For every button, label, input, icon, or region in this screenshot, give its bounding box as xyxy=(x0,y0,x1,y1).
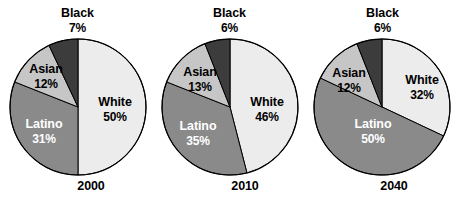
asian-label-2000: Asian 12% xyxy=(10,62,82,92)
pie-panel-2010: Black 6% Asian 13% Latino 35% White 46% … xyxy=(152,0,307,209)
white-label-pct: 32% xyxy=(391,88,453,103)
latino-label-text: Latino xyxy=(26,117,63,131)
black-label-text: Black xyxy=(61,6,94,20)
white-label-text: White xyxy=(98,95,132,109)
pie-chart-figure: Black 7% Asian 12% Latino 31% White 50% … xyxy=(0,0,465,209)
year-label-2000: 2000 xyxy=(60,179,122,193)
white-label-text: White xyxy=(250,95,284,109)
black-label-2000: Black 7% xyxy=(0,6,155,36)
white-label-text: White xyxy=(405,73,439,87)
pie-panel-2040: Black 6% Asian 12% Latino 50% White 32% … xyxy=(305,0,460,209)
asian-label-2040: Asian 12% xyxy=(313,66,385,96)
white-label-2040: White 32% xyxy=(391,73,453,103)
year-label-2010: 2010 xyxy=(214,179,276,193)
asian-label-2010: Asian 13% xyxy=(164,65,236,95)
year-label-2040: 2040 xyxy=(363,179,425,193)
black-label-2040: Black 6% xyxy=(305,6,460,36)
asian-label-pct: 12% xyxy=(10,77,82,92)
asian-label-text: Asian xyxy=(29,62,63,76)
latino-label-pct: 50% xyxy=(335,132,411,147)
black-label-pct: 6% xyxy=(305,21,460,36)
black-label-2010: Black 6% xyxy=(152,6,307,36)
asian-label-pct: 12% xyxy=(313,81,385,96)
asian-label-pct: 13% xyxy=(164,80,236,95)
latino-label-pct: 31% xyxy=(6,132,82,147)
white-label-pct: 50% xyxy=(84,110,146,125)
latino-label-text: Latino xyxy=(355,117,392,131)
latino-label-2000: Latino 31% xyxy=(6,117,82,147)
latino-label-pct: 35% xyxy=(160,134,236,149)
black-label-text: Black xyxy=(213,6,246,20)
white-label-2000: White 50% xyxy=(84,95,146,125)
latino-label-text: Latino xyxy=(180,119,217,133)
black-label-pct: 6% xyxy=(152,21,307,36)
pie-panel-2000: Black 7% Asian 12% Latino 31% White 50% … xyxy=(0,0,155,209)
white-label-pct: 46% xyxy=(236,110,298,125)
black-label-text: Black xyxy=(366,6,399,20)
white-label-2010: White 46% xyxy=(236,95,298,125)
asian-label-text: Asian xyxy=(332,66,366,80)
black-label-pct: 7% xyxy=(0,21,155,36)
latino-label-2040: Latino 50% xyxy=(335,117,411,147)
latino-label-2010: Latino 35% xyxy=(160,119,236,149)
asian-label-text: Asian xyxy=(183,65,217,79)
